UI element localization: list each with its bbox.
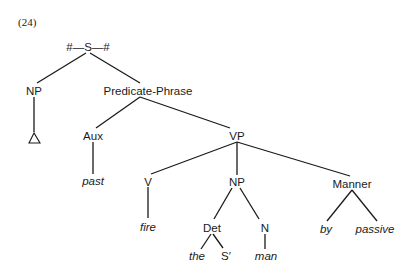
leaf-fire: fire — [140, 221, 156, 233]
node-aux: Aux — [83, 130, 103, 142]
delta-triangle-icon — [29, 133, 40, 143]
node-v: V — [144, 176, 152, 188]
edge-vp-manner — [237, 142, 350, 176]
example-number: (24) — [18, 16, 37, 29]
edge-np-n — [240, 188, 259, 219]
node-vp: VP — [229, 130, 245, 142]
leaf-man: man — [255, 250, 277, 262]
edge-predicate-phrase-vp — [140, 97, 230, 128]
node-root-s: #—S—# — [66, 41, 110, 53]
edge-manner-by — [327, 190, 352, 221]
node-np-object: NP — [229, 176, 245, 188]
leaf-by: by — [320, 223, 333, 235]
leaf-s-prime: S′ — [221, 250, 231, 262]
tree-edges — [34, 53, 377, 249]
leaf-past: past — [81, 175, 105, 187]
node-n: N — [261, 222, 269, 234]
edge-np-det — [214, 188, 232, 219]
tree-nodes: #—S—# NP Predicate-Phrase Aux VP V NP Ma… — [26, 41, 372, 234]
edge-s-np — [37, 53, 86, 83]
node-np-subject: NP — [26, 85, 42, 97]
edge-predicate-phrase-aux — [96, 97, 140, 128]
tree-leaves: past fire by passive the S′ man — [29, 133, 395, 262]
leaf-the: the — [189, 250, 205, 262]
edge-vp-v — [151, 142, 237, 174]
edge-manner-passive — [352, 190, 377, 221]
node-manner: Manner — [333, 178, 372, 190]
node-det: Det — [203, 222, 222, 234]
edge-det-the — [201, 234, 211, 249]
edge-det-s-prime — [213, 234, 223, 248]
leaf-passive: passive — [355, 223, 395, 235]
node-predicate-phrase: Predicate-Phrase — [104, 85, 193, 97]
syntax-tree-diagram: (24) #—S— — [0, 0, 417, 279]
edge-s-predicate-phrase — [90, 53, 140, 83]
